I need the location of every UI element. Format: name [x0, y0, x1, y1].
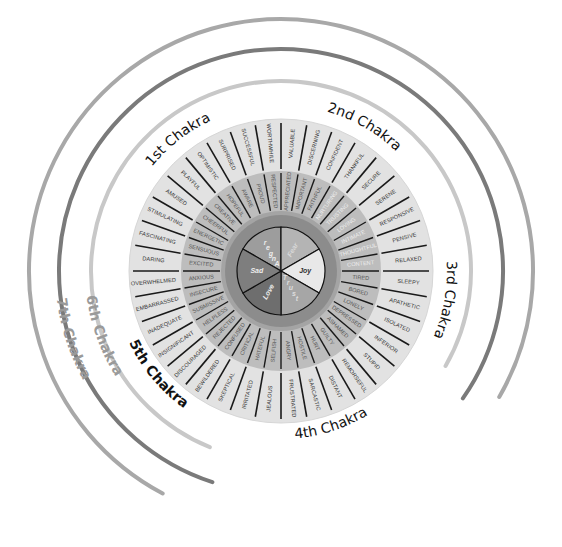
core-emotions: AngerFearJoyTrustLoveSad: [237, 227, 325, 315]
core-label-letter: e: [266, 244, 270, 251]
core-label-sad: Sad: [250, 267, 264, 274]
chakra-label-3: 3rd Chakra: [431, 261, 460, 342]
chakra-emotion-wheel: SLEEPYAPATHETICISOLATEDINFERIORSTUPIDREM…: [0, 0, 562, 547]
core-label-joy: Joy: [299, 267, 312, 275]
